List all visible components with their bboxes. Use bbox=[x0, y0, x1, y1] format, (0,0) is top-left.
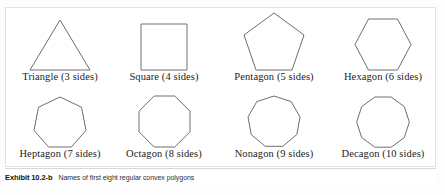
hexagon-icon bbox=[354, 18, 412, 71]
polygon-cell-pentagon: Pentagon (5 sides) bbox=[222, 11, 326, 88]
pentagon-shape bbox=[222, 11, 326, 71]
polygon-cell-octagon: Octagon (8 sides) bbox=[112, 88, 216, 165]
hexagon-shape bbox=[331, 11, 435, 71]
polygon-label-triangle: Triangle (3 sides) bbox=[8, 71, 112, 82]
nonagon-shape bbox=[222, 88, 326, 148]
polygon-cell-nonagon: Nonagon (9 sides) bbox=[222, 88, 326, 165]
polygon-label-decagon: Decagon (10 sides) bbox=[331, 148, 435, 159]
triangle-shape bbox=[8, 11, 112, 71]
polygon-label-nonagon: Nonagon (9 sides) bbox=[222, 148, 326, 159]
polygon-label-hexagon: Hexagon (6 sides) bbox=[331, 71, 435, 82]
triangle-icon bbox=[29, 19, 91, 71]
decagon-shape bbox=[331, 88, 435, 148]
polygon-label-heptagon: Heptagon (7 sides) bbox=[8, 148, 112, 159]
polygon-cell-square: Square (4 sides) bbox=[112, 11, 216, 88]
nonagon-icon bbox=[247, 95, 301, 148]
polygon-grid: Triangle (3 sides) Square (4 sides) bbox=[6, 8, 435, 166]
figure-caption: Exhibit 10.2-b Names of first eight regu… bbox=[5, 170, 436, 185]
illustration-panel: Triangle (3 sides) Square (4 sides) bbox=[5, 7, 436, 167]
figure-root: Triangle (3 sides) Square (4 sides) bbox=[0, 0, 445, 195]
octagon-shape bbox=[112, 88, 216, 148]
polygon-cell-heptagon: Heptagon (7 sides) bbox=[8, 88, 112, 165]
polygon-cell-triangle: Triangle (3 sides) bbox=[8, 11, 112, 88]
heptagon-shape bbox=[8, 88, 112, 148]
polygon-cell-decagon: Decagon (10 sides) bbox=[331, 88, 435, 165]
octagon-icon bbox=[138, 95, 191, 148]
caption-exhibit-number: Exhibit 10.2-b bbox=[5, 173, 52, 182]
decagon-icon bbox=[356, 96, 410, 148]
square-shape bbox=[112, 11, 216, 71]
polygon-label-square: Square (4 sides) bbox=[112, 71, 216, 82]
square-icon bbox=[140, 23, 188, 71]
polygon-label-octagon: Octagon (8 sides) bbox=[112, 148, 216, 159]
caption-description: Names of first eight regular convex poly… bbox=[58, 174, 194, 181]
caption-divider bbox=[5, 168, 436, 169]
polygon-cell-hexagon: Hexagon (6 sides) bbox=[331, 11, 435, 88]
pentagon-icon bbox=[243, 12, 305, 71]
polygon-label-pentagon: Pentagon (5 sides) bbox=[222, 71, 326, 82]
heptagon-icon bbox=[33, 96, 87, 148]
